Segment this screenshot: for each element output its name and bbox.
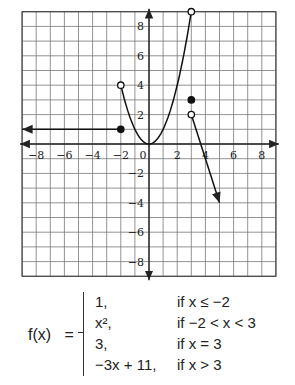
function-definition: f(x) = 1,if x ≤ −2 x²,if −2 < x < 3 3,if… (0, 290, 295, 385)
y-tick-label: 4 (137, 79, 144, 92)
x-tick-label: −4 (84, 149, 100, 162)
y-tick-label: 8 (137, 20, 144, 33)
x-tick-label: 2 (174, 149, 181, 162)
y-tick-label: −8 (128, 256, 144, 269)
function-lhs: f(x) = (28, 326, 74, 344)
y-tick-label: −2 (128, 167, 144, 180)
parabola-curve (121, 12, 192, 144)
y-tick-label: 6 (137, 50, 144, 63)
open-point (188, 111, 194, 117)
open-point (118, 82, 124, 88)
piecewise-graph: −8−6−4−202468−8−6−4−22468 (0, 0, 295, 290)
x-tick-label: −8 (28, 149, 44, 162)
x-tick-label: 0 (140, 149, 147, 162)
x-tick-label: −6 (56, 149, 72, 162)
closed-point (118, 126, 124, 132)
y-tick-label: −6 (128, 226, 144, 239)
case-brace (83, 292, 90, 376)
x-tick-label: −2 (113, 149, 129, 162)
y-tick-label: −4 (128, 197, 144, 210)
closed-point (188, 97, 194, 103)
x-tick-label: 6 (230, 149, 237, 162)
x-tick-label: 8 (258, 149, 265, 162)
y-tick-label: 2 (137, 109, 144, 122)
open-point (188, 9, 194, 15)
